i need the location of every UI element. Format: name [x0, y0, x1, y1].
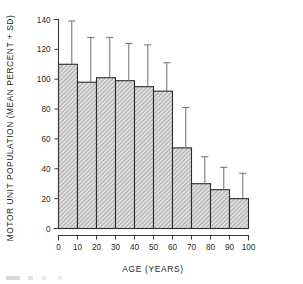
bar — [230, 199, 249, 229]
x-tick-label: 60 — [168, 243, 178, 252]
x-tick-label: 0 — [56, 243, 61, 252]
x-tick-label: 80 — [206, 243, 216, 252]
x-tick-label: 30 — [111, 243, 121, 252]
y-tick-label: 100 — [37, 75, 51, 84]
bar — [135, 87, 154, 229]
x-tick-label: 90 — [225, 243, 235, 252]
y-tick-label: 60 — [41, 135, 51, 144]
bar-chart: 020406080100120140 010203040506070809010… — [0, 0, 303, 284]
x-tick-label: 40 — [130, 243, 140, 252]
x-tick-label: 20 — [92, 243, 102, 252]
x-tick-label: 50 — [149, 243, 159, 252]
y-tick-label: 140 — [37, 16, 51, 25]
bar — [154, 91, 173, 228]
y-tick-label: 0 — [46, 225, 51, 234]
y-tick-label: 80 — [41, 105, 51, 114]
x-tick-label: 10 — [73, 243, 83, 252]
x-tick-label: 100 — [242, 243, 256, 252]
x-tick-label: 70 — [187, 243, 197, 252]
bar — [59, 64, 78, 228]
y-axis-title: MOTOR UNIT POPULATION (MEAN PERCENT + SD… — [5, 15, 15, 241]
y-tick-label: 20 — [41, 195, 51, 204]
bar — [116, 81, 135, 229]
bar — [173, 148, 192, 229]
caption-fragment — [6, 276, 126, 280]
bar — [192, 184, 211, 229]
bar — [211, 190, 230, 229]
y-tick-label: 120 — [37, 45, 51, 54]
figure-panel: 020406080100120140 010203040506070809010… — [0, 0, 303, 284]
x-axis-title: AGE (YEARS) — [122, 264, 184, 274]
bar — [97, 78, 116, 229]
y-tick-label: 40 — [41, 165, 51, 174]
bar — [78, 82, 97, 228]
